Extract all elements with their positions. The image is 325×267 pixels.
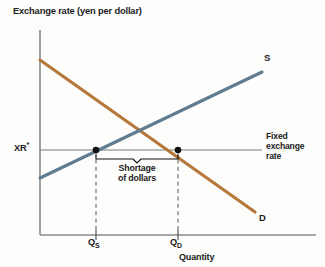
qd-tick-label: QD: [170, 237, 182, 248]
supply-demand-chart: Exchange rate (yen per dollar) S D Fixed…: [0, 0, 325, 267]
shortage-line-2: of dollars: [118, 173, 156, 183]
equilibrium-rate-star: *: [26, 140, 29, 149]
qs-tick-label: QS: [88, 237, 100, 248]
demand-quantity-point: [175, 147, 182, 154]
shortage-annotation: Shortageof dollars: [101, 163, 173, 184]
equilibrium-rate-label: XR*: [14, 143, 29, 154]
shortage-bracket: [96, 155, 178, 163]
qs-base: Q: [88, 237, 95, 247]
x-axis-label: Quantity: [179, 252, 214, 263]
page-title: Exchange rate (yen per dollar): [13, 6, 142, 17]
demand-curve-label: D: [259, 212, 266, 223]
qs-subscript: S: [95, 242, 100, 249]
shortage-line-1: Shortage: [119, 163, 156, 173]
demand-curve: [40, 60, 255, 212]
qd-base: Q: [170, 237, 177, 247]
fixed-exchange-rate-label: Fixedexchangerate: [266, 131, 304, 161]
fixed-rate-line-1: Fixed: [266, 131, 288, 141]
equilibrium-rate-base: XR: [14, 143, 26, 153]
supply-quantity-point: [93, 147, 100, 154]
fixed-rate-line-3: rate: [266, 151, 281, 161]
supply-curve-label: S: [264, 52, 270, 63]
fixed-rate-line-2: exchange: [266, 141, 304, 151]
qd-subscript: D: [177, 242, 182, 249]
